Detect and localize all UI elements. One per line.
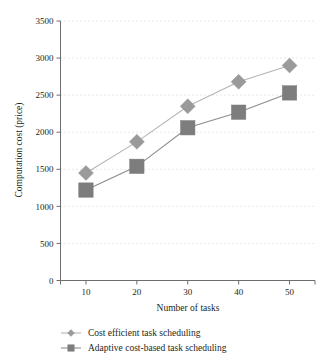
y-axis-tick-labels: 0500100015002000250030003500 — [36, 16, 55, 286]
data-point-marker — [231, 74, 246, 89]
gridlines — [61, 21, 316, 281]
y-axis-tick-label: 2500 — [36, 90, 55, 100]
legend-marker — [68, 345, 74, 351]
x-axis-ticks — [61, 281, 316, 285]
x-axis-tick-label: 40 — [234, 287, 244, 297]
chart-container: 0500100015002000250030003500 1020304050 … — [0, 0, 329, 364]
legend-item-label: Cost efficient task scheduling — [88, 328, 201, 338]
data-point-marker — [282, 86, 296, 100]
y-axis-tick-label: 0 — [49, 276, 54, 286]
axes — [61, 21, 316, 281]
x-axis-tick-labels: 1020304050 — [81, 287, 294, 297]
y-axis-tick-label: 3500 — [36, 16, 55, 26]
data-point-marker — [231, 105, 245, 119]
y-axis-title: Computation cost (price) — [14, 103, 25, 198]
data-point-marker — [130, 159, 144, 173]
y-axis-tick-label: 1000 — [36, 202, 55, 212]
y-axis-ticks — [57, 21, 61, 281]
series-line — [86, 65, 290, 173]
series-markers — [78, 58, 297, 197]
legend-marker — [68, 330, 75, 337]
y-axis-tick-label: 500 — [40, 239, 54, 249]
y-axis-tick-label: 2000 — [36, 127, 55, 137]
data-point-marker — [79, 183, 93, 197]
x-axis-tick-label: 50 — [285, 287, 295, 297]
data-point-marker — [129, 134, 144, 149]
data-point-marker — [181, 121, 195, 135]
x-axis-tick-label: 20 — [132, 287, 142, 297]
line-chart: 0500100015002000250030003500 1020304050 … — [0, 0, 329, 364]
y-axis-tick-label: 3000 — [36, 53, 55, 63]
data-point-marker — [78, 165, 93, 180]
data-point-marker — [282, 58, 297, 73]
chart-legend: Cost efficient task schedulingAdaptive c… — [61, 328, 227, 353]
data-point-marker — [180, 99, 195, 114]
legend-item-label: Adaptive cost-based task scheduling — [88, 343, 227, 353]
y-axis-tick-label: 1500 — [36, 164, 55, 174]
x-axis-tick-label: 10 — [81, 287, 91, 297]
x-axis-tick-label: 30 — [183, 287, 193, 297]
x-axis-title: Number of tasks — [157, 303, 220, 313]
